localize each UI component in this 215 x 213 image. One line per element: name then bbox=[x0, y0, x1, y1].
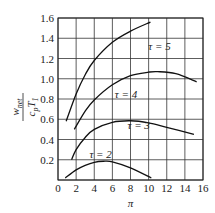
y-tick-label: 1.6 bbox=[40, 12, 54, 24]
x-tick-label: 10 bbox=[143, 182, 155, 194]
x-axis-label: π bbox=[128, 197, 134, 209]
y-tick-label: 0.8 bbox=[40, 93, 54, 105]
y-tick-label: 1.4 bbox=[40, 32, 54, 44]
x-tick-label: 0 bbox=[55, 182, 61, 194]
svg-text:wnet: wnet bbox=[9, 98, 24, 116]
series-label: τ = 4 bbox=[115, 88, 138, 100]
y-axis-label: wnetcpT1 bbox=[9, 93, 40, 121]
x-tick-label: 12 bbox=[161, 182, 172, 194]
chart: τ = 5τ = 4τ = 3τ = 2 02468101214160.20.4… bbox=[0, 0, 215, 213]
y-tick-label: 0.2 bbox=[40, 154, 54, 166]
x-tick-label: 4 bbox=[92, 182, 98, 194]
x-tick-label: 2 bbox=[73, 182, 79, 194]
y-tick-label: 0.4 bbox=[40, 134, 54, 146]
series-label: τ = 3 bbox=[127, 119, 150, 131]
series-curve bbox=[66, 22, 150, 121]
y-tick-label: 1.2 bbox=[40, 53, 54, 65]
y-tick-label: 1.0 bbox=[40, 73, 54, 85]
svg-text:cpT1: cpT1 bbox=[25, 97, 40, 116]
series-label: τ = 2 bbox=[89, 148, 112, 160]
x-tick-label: 8 bbox=[128, 182, 134, 194]
y-tick-label: 0.6 bbox=[40, 113, 54, 125]
x-tick-label: 16 bbox=[198, 182, 210, 194]
curves bbox=[65, 22, 196, 178]
series-curve bbox=[65, 161, 151, 178]
series-label: τ = 5 bbox=[148, 40, 171, 52]
axes: 02468101214160.20.40.60.81.01.21.41.6πwn… bbox=[9, 12, 209, 209]
x-tick-label: 14 bbox=[179, 182, 191, 194]
x-tick-label: 6 bbox=[110, 182, 116, 194]
